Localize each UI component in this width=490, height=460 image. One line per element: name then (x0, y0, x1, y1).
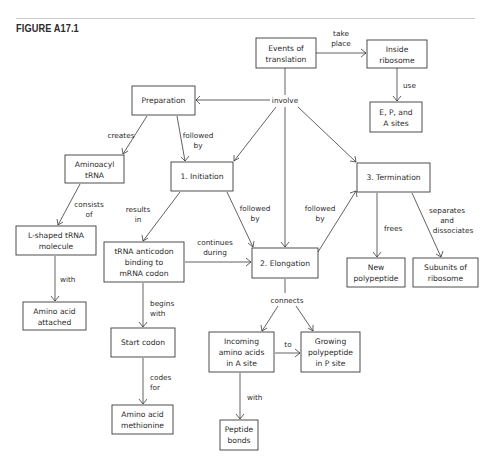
link-to: to (284, 340, 292, 349)
svg-text:2. Elongation: 2. Elongation (260, 259, 310, 268)
node-events-of-translation: Events oftranslation (256, 38, 316, 68)
node-inside-ribosome: Insideribosome (367, 40, 427, 68)
node-l-shaped-trna-molecule: L-shaped tRNAmolecule (16, 226, 96, 255)
svg-text:1. Initiation: 1. Initiation (180, 172, 223, 181)
node-elongation: 2. Elongation (252, 248, 318, 278)
link-involve: involve (272, 96, 299, 105)
node-subunits-of-ribosome: Subunits ofribosome (413, 258, 478, 287)
node-amino-acid-methionine: Amino acidmethionine (112, 405, 173, 434)
link-with-1: with (60, 275, 75, 284)
node-amino-acid-attached: Amino acidattached (23, 302, 86, 330)
concept-map: takeplace use involve creates followedby… (0, 0, 490, 460)
link-separates-and-dissociates: separatesanddissociates (429, 206, 473, 235)
svg-text:3. Termination: 3. Termination (366, 173, 420, 182)
node-peptide-bonds: Peptidebonds (220, 420, 258, 450)
link-take-place: takeplace (331, 29, 351, 48)
svg-text:Preparation: Preparation (142, 96, 186, 105)
link-continues-during: continuesduring (197, 238, 233, 257)
link-creates: creates (108, 131, 135, 140)
node-incoming-amino-acids: Incomingamino acidsin A site (209, 332, 274, 372)
link-with-2: with (247, 393, 262, 402)
link-frees: frees (384, 224, 402, 233)
link-codes-for: codesfor (150, 373, 172, 392)
node-start-codon: Start codon (111, 328, 175, 357)
node-growing-polypeptide: Growingpolypeptidein P site (301, 332, 360, 372)
node-initiation: 1. Initiation (171, 162, 233, 191)
link-connects: connects (271, 296, 304, 305)
link-consists-of: consistsof (74, 200, 104, 219)
node-new-polypeptide: Newpolypeptide (347, 258, 405, 287)
node-aminoacyl-trna: AminoacyltRNA (65, 155, 124, 183)
link-followed-by-2: followedby (240, 204, 271, 223)
node-e-p-a-sites: E, P, andA sites (370, 102, 422, 132)
link-followed-by-1: followedby (183, 131, 214, 150)
link-followed-by-3: followedby (305, 204, 336, 223)
link-begins-with: beginswith (150, 299, 174, 318)
link-results-in: resultsin (126, 205, 151, 224)
svg-text:Start codon: Start codon (121, 338, 165, 347)
link-use: use (403, 81, 416, 90)
node-termination: 3. Termination (357, 163, 430, 192)
node-preparation: Preparation (132, 86, 195, 115)
node-trna-anticodon-binding: tRNA anticodonbinding tomRNA codon (104, 242, 184, 282)
